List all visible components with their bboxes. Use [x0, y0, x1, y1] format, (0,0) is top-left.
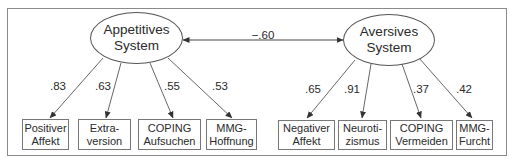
indicator-line2: Affekt [32, 135, 60, 148]
loading-label: .53 [212, 80, 228, 92]
loading-label: .65 [305, 83, 321, 95]
indicator-line1: Positiver [24, 122, 66, 135]
indicator-coping-aufsuchen: COPING Aufsuchen [138, 119, 201, 150]
loading-label: .55 [164, 80, 180, 92]
loading-arrow [362, 64, 371, 118]
correlation-label: −.60 [252, 29, 275, 41]
loading-label: .91 [344, 83, 360, 95]
sem-diagram: Appetitives System Aversives System −.60… [0, 0, 516, 162]
loading-label: .42 [456, 83, 472, 95]
indicator-line2: Affekt [293, 135, 321, 148]
latent-label-line1: Appetitives [103, 22, 169, 38]
indicator-line1: Neuroti- [343, 122, 382, 135]
indicator-mmg-furcht: MMG- Furcht [456, 120, 493, 150]
indicator-line1: COPING [148, 122, 191, 135]
indicator-neurotizismus: Neuroti- zismus [338, 120, 387, 150]
indicator-line2: Furcht [459, 135, 490, 148]
indicator-line2: zismus [345, 135, 379, 148]
latent-appetitive-system: Appetitives System [90, 12, 183, 64]
indicator-line2: Aufsuchen [144, 135, 196, 148]
latent-label-line2: System [103, 38, 169, 54]
indicator-coping-vermeiden: COPING Vermeiden [390, 120, 453, 150]
indicator-line2: version [87, 135, 122, 148]
latent-label-line1: Aversives [360, 24, 418, 40]
indicator-line1: Negativer [283, 122, 330, 135]
indicator-line2: Vermeiden [395, 135, 448, 148]
indicator-line2: Hoffnung [209, 135, 253, 148]
latent-label-line2: System [360, 40, 418, 56]
indicator-mmg-hoffnung: MMG- Hoffnung [206, 119, 257, 150]
indicator-positiver-affekt: Positiver Affekt [22, 119, 69, 150]
indicator-line1: COPING [400, 122, 443, 135]
indicator-line1: MMG- [216, 122, 247, 135]
loading-label: .83 [50, 80, 66, 92]
latent-aversive-system: Aversives System [343, 14, 435, 66]
indicator-line1: MMG- [459, 122, 490, 135]
indicator-extraversion: Extra- version [78, 119, 131, 150]
indicator-line1: Extra- [90, 122, 119, 135]
loading-label: .63 [95, 80, 111, 92]
indicator-negativer-affekt: Negativer Affekt [278, 120, 335, 150]
loading-label: .37 [413, 83, 429, 95]
